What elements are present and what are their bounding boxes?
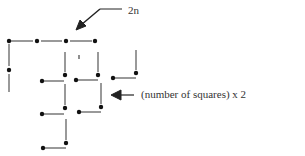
dot [41,146,45,150]
dot [7,39,11,43]
arrow-2n-icon [76,9,122,30]
label-number-of-squares: (number of squares) x 2 [141,88,246,100]
matchstick-diagram [0,0,305,156]
dot [63,106,67,110]
dot [111,76,115,80]
dot [40,112,44,116]
arrow-squares-icon [111,90,134,100]
dot [96,73,100,77]
dot [64,39,68,43]
dot [99,105,103,109]
dot [35,39,39,43]
dot [64,141,68,145]
dot [77,110,81,114]
dot [74,78,78,82]
dot [63,73,67,77]
dot [134,71,138,75]
dot [93,39,97,43]
dot [7,68,11,72]
dot [40,79,44,83]
label-2n: 2n [128,4,139,16]
